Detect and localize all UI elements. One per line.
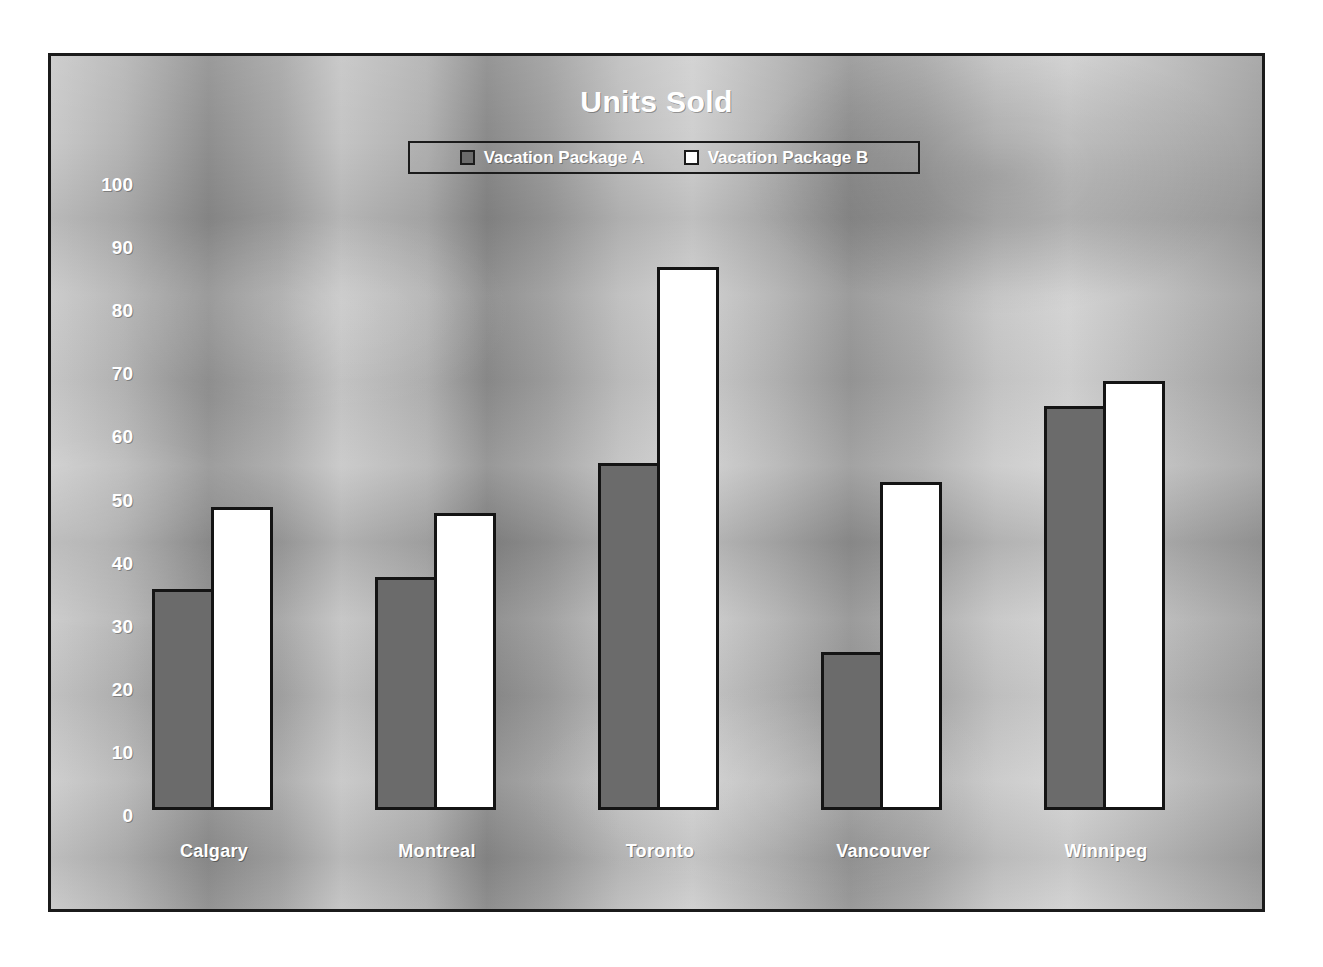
plot-area: 1009080706050403020100 CalgaryMontrealTo…: [51, 56, 1262, 909]
bar-group: Calgary: [152, 56, 276, 909]
bar-calgary-series-a[interactable]: [152, 589, 214, 810]
bar-vancouver-series-a[interactable]: [821, 652, 883, 810]
bar-calgary-series-b[interactable]: [211, 507, 273, 810]
bar-vancouver-series-b[interactable]: [880, 482, 942, 810]
y-axis-tick-label: 0: [122, 805, 133, 827]
bar-montreal-series-a[interactable]: [375, 577, 437, 810]
x-axis-category-label: Winnipeg: [1044, 841, 1168, 862]
y-axis: 1009080706050403020100: [51, 56, 143, 909]
x-axis-category-label: Vancouver: [821, 841, 945, 862]
bar-group: Vancouver: [821, 56, 945, 909]
y-axis-tick-label: 30: [112, 616, 133, 638]
y-axis-tick-label: 20: [112, 679, 133, 701]
y-axis-tick-label: 60: [112, 426, 133, 448]
bar-group: Montreal: [375, 56, 499, 909]
bar-winnipeg-series-a[interactable]: [1044, 406, 1106, 810]
y-axis-tick-label: 40: [112, 553, 133, 575]
bar-winnipeg-series-b[interactable]: [1103, 381, 1165, 810]
x-axis-category-label: Calgary: [152, 841, 276, 862]
y-axis-tick-label: 100: [101, 174, 133, 196]
x-axis-category-label: Toronto: [598, 841, 722, 862]
chart-frame: Units Sold Vacation Package A Vacation P…: [48, 53, 1265, 912]
y-axis-tick-label: 50: [112, 490, 133, 512]
y-axis-tick-label: 10: [112, 742, 133, 764]
bar-toronto-series-a[interactable]: [598, 463, 660, 810]
bar-group: Toronto: [598, 56, 722, 909]
bars-area: CalgaryMontrealTorontoVancouverWinnipeg: [143, 56, 1244, 909]
bar-montreal-series-b[interactable]: [434, 513, 496, 810]
y-axis-tick-label: 90: [112, 237, 133, 259]
y-axis-tick-label: 70: [112, 363, 133, 385]
y-axis-tick-label: 80: [112, 300, 133, 322]
x-axis-category-label: Montreal: [375, 841, 499, 862]
bar-group: Winnipeg: [1044, 56, 1168, 909]
bar-toronto-series-b[interactable]: [657, 267, 719, 810]
